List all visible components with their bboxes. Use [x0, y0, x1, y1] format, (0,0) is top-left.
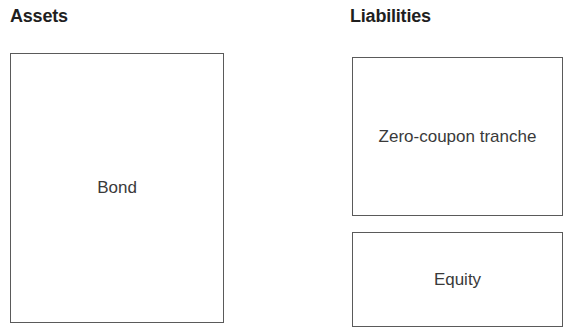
balance-sheet-diagram: Assets Liabilities Bond Zero-coupon tran… — [0, 0, 568, 330]
assets-heading: Assets — [10, 6, 68, 27]
equity-box-label: Equity — [434, 270, 481, 290]
bond-box-label: Bond — [97, 178, 137, 198]
liabilities-heading: Liabilities — [350, 6, 431, 27]
zero-coupon-tranche-box-label: Zero-coupon tranche — [379, 127, 537, 147]
bond-box: Bond — [10, 53, 224, 323]
zero-coupon-tranche-box: Zero-coupon tranche — [352, 57, 563, 216]
equity-box: Equity — [352, 232, 563, 327]
